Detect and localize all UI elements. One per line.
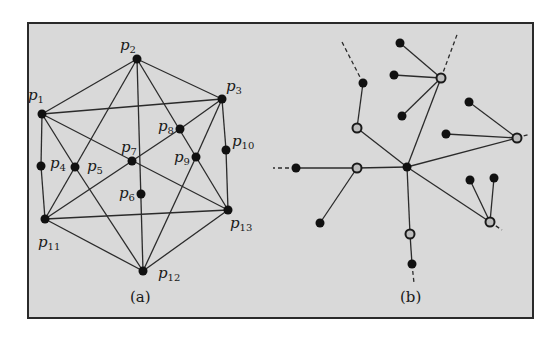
node-p8: [176, 125, 185, 134]
black-node-b9: [466, 176, 475, 185]
node-p5: [71, 163, 80, 172]
black-node-b5: [465, 98, 474, 107]
hollow-node-h4: [353, 164, 362, 173]
node-p9: [192, 153, 201, 162]
figure-frame: [28, 23, 533, 318]
black-node-b10: [490, 174, 499, 183]
node-p10: [222, 146, 231, 155]
hollow-node-h1: [353, 124, 362, 133]
hollow-node-h6: [406, 230, 415, 239]
black-node-b6: [442, 130, 451, 139]
node-p2: [133, 55, 142, 64]
black-node-b4: [398, 112, 407, 121]
node-p7: [128, 157, 137, 166]
black-node-b8: [316, 219, 325, 228]
black-node-b1: [359, 79, 368, 88]
black-node-b3: [390, 71, 399, 80]
figure-canvas: p1p2p3p4p5p6p7p8p9p10p11p12p13 (a) (b): [0, 0, 553, 339]
panel-b-caption: (b): [400, 288, 421, 306]
black-node-b11: [408, 260, 417, 269]
black-node-b2: [396, 39, 405, 48]
node-p4: [37, 162, 46, 171]
node-p6: [137, 190, 146, 199]
node-p11: [41, 215, 50, 224]
node-p12: [139, 267, 148, 276]
hollow-node-h2: [437, 74, 446, 83]
node-p1: [38, 110, 47, 119]
panel-a-caption: (a): [130, 288, 151, 306]
node-p3: [218, 95, 227, 104]
black-node-c: [403, 163, 412, 172]
black-node-b7: [292, 164, 301, 173]
hollow-node-h3: [513, 134, 522, 143]
hollow-node-h5: [486, 218, 495, 227]
